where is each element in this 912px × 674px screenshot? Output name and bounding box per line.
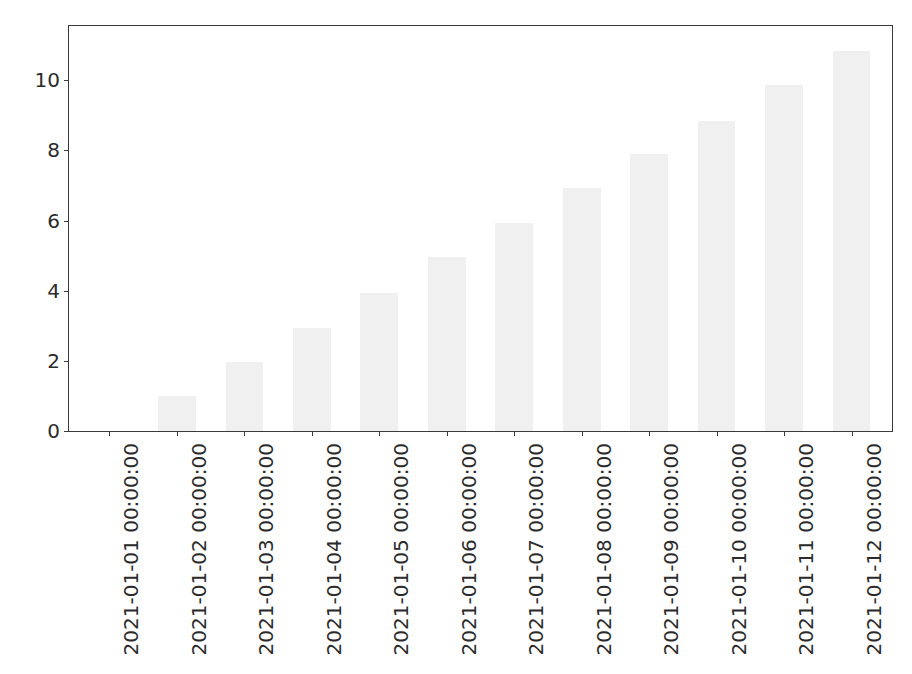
y-tick-mark: [64, 80, 69, 81]
x-tick-label-text: 2021-01-11 00:00:00: [796, 443, 816, 655]
y-tick-label: 10: [35, 70, 60, 90]
y-tick-mark: [64, 291, 69, 292]
x-tick-label-text: 2021-01-07 00:00:00: [527, 443, 547, 655]
x-tick-label-text: 2021-01-02 00:00:00: [189, 443, 209, 655]
x-tick-label: 2021-01-06 00:00:00: [447, 231, 467, 443]
x-tick-label-text: 2021-01-09 00:00:00: [662, 443, 682, 655]
x-tick-label-text: 2021-01-08 00:00:00: [594, 443, 614, 655]
x-tick-label: 2021-01-11 00:00:00: [784, 231, 804, 443]
y-tick-label: 2: [47, 351, 60, 371]
x-tick-label: 2021-01-03 00:00:00: [244, 231, 264, 443]
chart-figure: 0246810 2021-01-01 00:00:002021-01-02 00…: [0, 0, 912, 674]
x-tick-label: 2021-01-09 00:00:00: [649, 231, 669, 443]
x-tick-label: 2021-01-02 00:00:00: [177, 231, 197, 443]
x-tick-label-text: 2021-01-01 00:00:00: [122, 443, 142, 655]
x-tick-label: 2021-01-05 00:00:00: [379, 231, 399, 443]
x-tick-label-text: 2021-01-03 00:00:00: [257, 443, 277, 655]
x-tick-label: 2021-01-08 00:00:00: [582, 231, 602, 443]
x-tick-label: 2021-01-12 00:00:00: [852, 231, 872, 443]
x-tick-label-text: 2021-01-05 00:00:00: [392, 443, 412, 655]
y-tick-label: 6: [47, 211, 60, 231]
x-tick-label: 2021-01-04 00:00:00: [312, 231, 332, 443]
y-tick-mark: [64, 150, 69, 151]
x-tick-label-text: 2021-01-06 00:00:00: [459, 443, 479, 655]
y-tick-label: 4: [47, 281, 60, 301]
y-tick-mark: [64, 431, 69, 432]
y-tick-mark: [64, 221, 69, 222]
plot-area: 0246810 2021-01-01 00:00:002021-01-02 00…: [68, 25, 893, 432]
x-tick-label: 2021-01-10 00:00:00: [717, 231, 737, 443]
x-tick-label-text: 2021-01-04 00:00:00: [324, 443, 344, 655]
y-tick-mark: [64, 361, 69, 362]
x-tick-label-text: 2021-01-10 00:00:00: [729, 443, 749, 655]
x-tick-label: 2021-01-07 00:00:00: [514, 231, 534, 443]
y-tick-label: 0: [47, 421, 60, 441]
x-tick-label: 2021-01-01 00:00:00: [109, 231, 129, 443]
x-tick-label-text: 2021-01-12 00:00:00: [864, 443, 884, 655]
y-tick-label: 8: [47, 140, 60, 160]
